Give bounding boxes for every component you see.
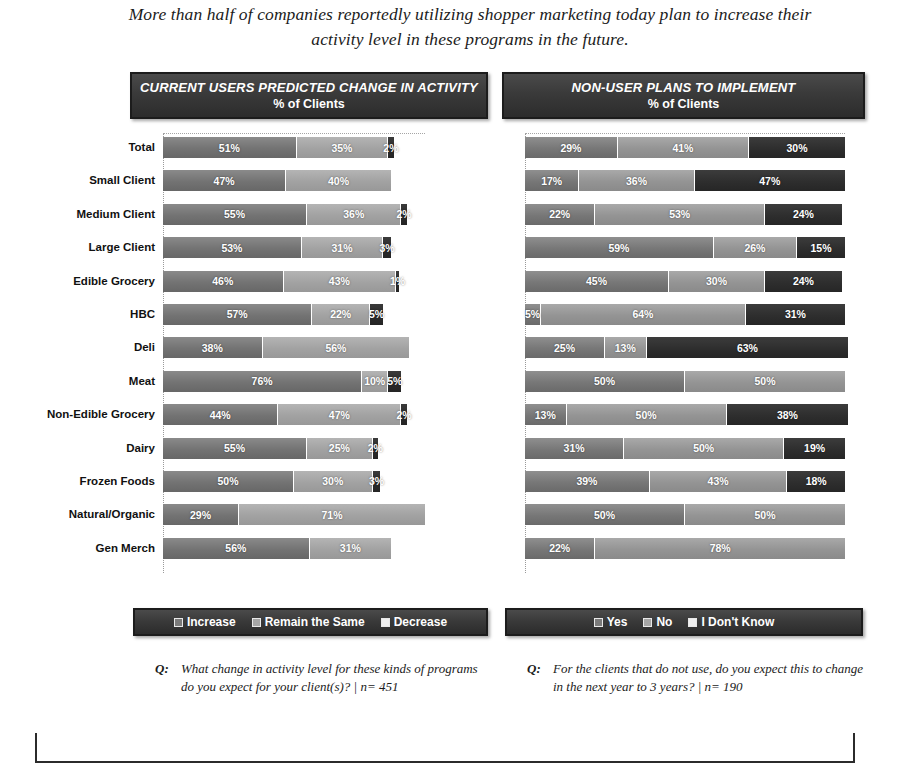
left-chart-legend: IncreaseRemain the SameDecrease [133, 608, 488, 636]
bar-segment-value: 39% [576, 475, 597, 487]
row-category-label: Frozen Foods [8, 475, 155, 487]
chart-row: 22%53%24% [505, 200, 905, 233]
bar-segment: 22% [525, 204, 595, 225]
bar-segment-value: 78% [710, 542, 731, 554]
bar-segment-value: 22% [330, 308, 351, 320]
bar-segment-value: 46% [212, 275, 233, 287]
chart-row: Medium Client55%36%2% [0, 200, 495, 233]
bar-segment-value: 47% [214, 175, 235, 187]
bar-segment: 50% [567, 404, 727, 425]
bar-segment: 53% [163, 237, 302, 258]
bar-segment: 64% [541, 304, 746, 325]
chart-row: 17%36%47% [505, 166, 905, 199]
row-category-label: Medium Client [8, 208, 155, 220]
bar-segment: 41% [618, 137, 749, 158]
chart-row: Deli38%56% [0, 333, 495, 366]
bar-segment: 3% [373, 471, 381, 492]
bar-segment-value: 30% [706, 275, 727, 287]
chart-row: Natural/Organic29%71% [0, 500, 495, 533]
bar-segment-value: 30% [322, 475, 343, 487]
bar-segment-value: 76% [252, 375, 273, 387]
bar-segment-value: 5% [525, 308, 540, 320]
legend-item-label: Increase [187, 615, 236, 629]
bar-segment: 30% [294, 471, 373, 492]
bar-segment-value: 43% [708, 475, 729, 487]
legend-item[interactable]: No [643, 615, 672, 629]
bar-segment-value: 17% [541, 175, 562, 187]
bar-segment: 76% [163, 371, 362, 392]
bar-segment-value: 44% [210, 409, 231, 421]
bar-segment: 13% [605, 337, 647, 358]
row-category-label: Edible Grocery [8, 275, 155, 287]
row-category-label: HBC [8, 308, 155, 320]
bar-segment: 56% [263, 337, 410, 358]
bar-segment: 50% [525, 504, 685, 525]
bar-segment: 25% [307, 438, 373, 459]
bar-segment: 35% [297, 137, 389, 158]
bar-segment-value: 53% [221, 242, 242, 254]
bar-segment-value: 26% [744, 242, 765, 254]
bar-segment-value: 3% [379, 242, 394, 254]
row-bar: 55%25%2% [163, 438, 425, 459]
bar-segment-value: 5% [369, 308, 384, 320]
right-panel-subtitle: % of Clients [504, 96, 863, 112]
row-category-label: Large Client [8, 241, 155, 253]
chart-row: 25%13%63% [505, 333, 905, 366]
bar-segment: 3% [383, 237, 391, 258]
bar-segment: 46% [163, 271, 284, 292]
bar-segment-value: 64% [632, 308, 653, 320]
legend-swatch-icon [594, 618, 603, 627]
bar-segment-value: 50% [217, 475, 238, 487]
chart-row: Large Client53%31%3% [0, 233, 495, 266]
row-bar: 13%50%38% [525, 404, 845, 425]
legend-item[interactable]: Remain the Same [252, 615, 365, 629]
bar-segment-value: 31% [331, 242, 352, 254]
row-category-label: Meat [8, 375, 155, 387]
row-bar: 29%71% [163, 504, 425, 525]
bar-segment: 13% [525, 404, 567, 425]
bar-segment: 26% [714, 237, 797, 258]
legend-item[interactable]: Decrease [381, 615, 447, 629]
legend-item-label: Remain the Same [265, 615, 365, 629]
bar-segment: 40% [286, 170, 391, 191]
bar-segment: 19% [784, 438, 845, 459]
bar-segment-value: 19% [804, 442, 825, 454]
chart-row: 29%41%30% [505, 133, 905, 166]
legend-swatch-icon [643, 618, 652, 627]
left-panel-title: CURRENT USERS PREDICTED CHANGE IN ACTIVI… [132, 80, 486, 96]
chart-row: Small Client47%40% [0, 166, 495, 199]
bar-segment-value: 47% [329, 409, 350, 421]
legend-item[interactable]: Increase [174, 615, 236, 629]
bar-segment: 56% [163, 538, 310, 559]
row-bar: 55%36%2% [163, 204, 425, 225]
legend-swatch-icon [174, 618, 183, 627]
bar-segment-value: 38% [202, 342, 223, 354]
legend-item-label: I Don't Know [701, 615, 774, 629]
bar-segment-value: 2% [368, 442, 383, 454]
bar-segment-value: 22% [549, 542, 570, 554]
legend-item[interactable]: I Don't Know [688, 615, 774, 629]
bar-segment-value: 50% [594, 509, 615, 521]
bar-segment: 55% [163, 438, 307, 459]
bar-segment: 51% [163, 137, 297, 158]
legend-item-label: No [656, 615, 672, 629]
bar-segment-value: 25% [329, 442, 350, 454]
bar-segment-value: 63% [737, 342, 758, 354]
bar-segment-value: 2% [396, 409, 411, 421]
row-bar: 56%31% [163, 538, 425, 559]
chart-row: 5%64%31% [505, 300, 905, 333]
left-question-marker: Q: [155, 660, 169, 678]
bar-segment-value: 29% [190, 509, 211, 521]
bar-segment: 18% [787, 471, 845, 492]
bar-segment: 44% [163, 404, 278, 425]
left-chart-question: Q: What change in activity level for the… [155, 660, 485, 696]
row-bar: 17%36%47% [525, 170, 845, 191]
bar-segment: 25% [525, 337, 605, 358]
row-bar: 38%56% [163, 337, 425, 358]
bar-segment: 71% [239, 504, 425, 525]
row-category-label: Natural/Organic [8, 508, 155, 520]
bar-segment: 47% [278, 404, 401, 425]
row-category-label: Gen Merch [8, 542, 155, 554]
bar-segment-value: 59% [608, 242, 629, 254]
legend-item[interactable]: Yes [594, 615, 628, 629]
